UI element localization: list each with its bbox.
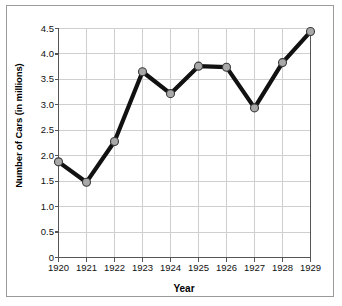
- data-point-marker: [55, 158, 63, 166]
- data-point-marker: [167, 90, 175, 98]
- data-point-marker: [307, 28, 315, 36]
- plot-area: [0, 0, 342, 306]
- data-point-marker: [195, 62, 203, 70]
- data-point-markers: [55, 28, 315, 187]
- data-point-marker: [139, 68, 147, 76]
- data-point-marker: [111, 137, 119, 145]
- line-chart: Number of Cars (in millions) Year 00.51.…: [0, 0, 342, 306]
- data-point-marker: [83, 178, 91, 186]
- grid-lines: [59, 29, 311, 258]
- axis-lines: [59, 29, 311, 258]
- data-point-marker: [223, 63, 231, 71]
- axis-ticks: [55, 29, 311, 262]
- data-point-marker: [279, 59, 287, 67]
- data-point-marker: [251, 104, 259, 112]
